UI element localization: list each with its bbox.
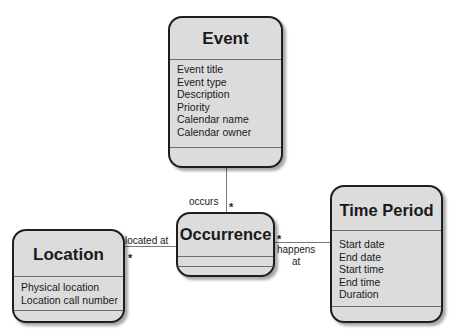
class-location[interactable]: Location Physical location Location call…: [12, 229, 125, 323]
attribute: Event title: [170, 63, 281, 76]
attribute: End time: [332, 276, 441, 289]
class-occurrence-operations: [178, 266, 273, 276]
class-location-operations: [14, 310, 123, 322]
multiplicity-located-at: *: [128, 253, 132, 263]
class-event-operations: [170, 147, 281, 168]
association-label-happens: happens: [277, 244, 315, 255]
class-time-period-attributes: Start date End date Start time End time …: [332, 230, 441, 306]
attribute: Event type: [170, 76, 281, 89]
association-label-occurs: occurs: [189, 196, 218, 207]
class-location-attributes: Physical location Location call number: [14, 276, 123, 310]
attribute: Start date: [332, 238, 441, 251]
attribute: Location call number: [14, 294, 123, 307]
attribute: End date: [332, 251, 441, 264]
attribute: Physical location: [14, 281, 123, 294]
class-time-period-operations: [332, 306, 441, 321]
class-occurrence-title: Occurrence: [178, 214, 273, 256]
class-occurrence[interactable]: Occurrence: [176, 212, 275, 277]
connector-occurrence-timeperiod: [274, 242, 330, 243]
class-event[interactable]: Event Event title Event type Description…: [168, 16, 283, 168]
class-time-period-title: Time Period: [332, 187, 441, 230]
attribute: Calendar name: [170, 113, 281, 126]
class-event-title: Event: [170, 18, 281, 59]
attribute: Duration: [332, 288, 441, 301]
attribute: Start time: [332, 263, 441, 276]
connector-occurrence-event: [226, 167, 227, 213]
multiplicity-occurs: *: [229, 202, 233, 212]
association-label-located-at: located at: [125, 235, 168, 246]
attribute: Calendar owner: [170, 126, 281, 139]
class-occurrence-attributes: [178, 256, 273, 266]
attribute: Priority: [170, 101, 281, 114]
connector-occurrence-location: [124, 246, 177, 247]
association-label-at: at: [292, 256, 300, 267]
multiplicity-happens-at: *: [277, 234, 281, 244]
attribute: Description: [170, 88, 281, 101]
class-event-attributes: Event title Event type Description Prior…: [170, 59, 281, 147]
class-location-title: Location: [14, 231, 123, 276]
class-time-period[interactable]: Time Period Start date End date Start ti…: [330, 185, 443, 323]
